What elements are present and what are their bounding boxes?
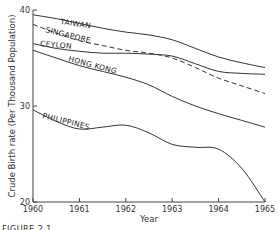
- series-label-hong-kong: HONG KONG: [67, 54, 118, 76]
- y-tick-label: 20: [20, 198, 30, 207]
- x-tick-label: 1963: [162, 205, 182, 214]
- x-axis-title: Year: [139, 214, 159, 224]
- x-tick-label: 1964: [208, 205, 228, 214]
- y-tick-label: 40: [20, 6, 30, 15]
- y-tick-label: 30: [20, 102, 30, 111]
- series-label-ceylon: CEYLON: [40, 39, 72, 51]
- x-tick-label: 1962: [116, 205, 136, 214]
- y-axis-title: Crude Birth rate (Per Thousand Populatio…: [7, 14, 17, 197]
- series-labels: TAIWANSINGAPORECEYLONHONG KONGPHILIPPINE…: [40, 17, 118, 132]
- x-tick-label: 1965: [255, 205, 275, 214]
- figure-caption: FIGURE 2.1: [2, 225, 52, 230]
- series-label-philippines: PHILIPPINES: [42, 111, 91, 131]
- birth-rate-line-chart: 196019611962196319641965203040 TAIWANSIN…: [0, 0, 279, 230]
- x-tick-label: 1961: [69, 205, 89, 214]
- series-label-taiwan: TAIWAN: [59, 17, 92, 30]
